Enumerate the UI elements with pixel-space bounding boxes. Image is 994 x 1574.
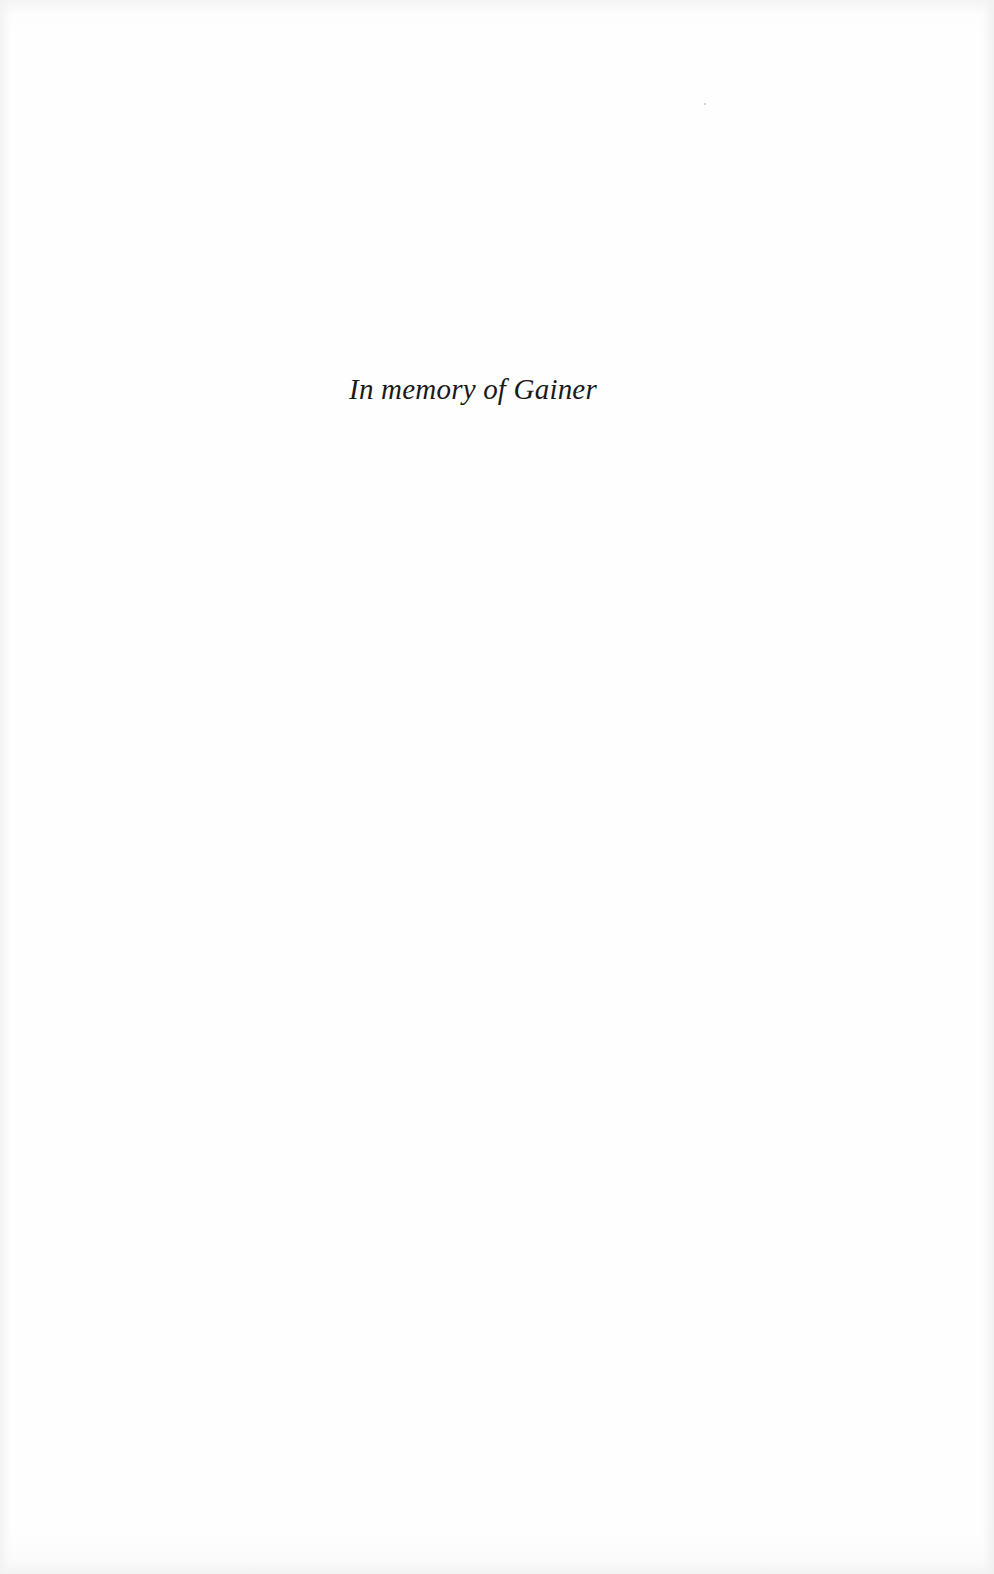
dedication-text: In memory of Gainer bbox=[0, 369, 994, 409]
scan-speck bbox=[704, 103, 706, 105]
book-page: In memory of Gainer bbox=[0, 0, 994, 1574]
